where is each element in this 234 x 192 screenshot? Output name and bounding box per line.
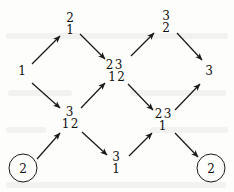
node-label-row: 12 — [61, 118, 79, 130]
edge-bottom-center-to-lower-right — [129, 133, 152, 156]
node-upper-left-21: 21 — [66, 13, 75, 36]
node-label-row: 2 — [162, 22, 171, 34]
node-source-1: 1 — [18, 66, 27, 78]
node-label-cell: 3 — [205, 66, 214, 78]
node-label-row: 1 — [112, 163, 121, 175]
edge-center-to-upper-right — [131, 33, 154, 56]
edge-upper-right-to-sink — [177, 33, 202, 60]
node-label-row: 1 — [18, 66, 27, 78]
edge-lower-left-to-bottom-center — [82, 132, 107, 155]
node-label-cell: 1 — [66, 24, 75, 36]
node-label-row: 1 — [66, 24, 75, 36]
node-label-cell: 2 — [162, 22, 171, 34]
node-upper-right-32: 32 — [162, 11, 171, 34]
edge-source-to-lower-left — [32, 83, 60, 108]
node-label-row: 3 — [205, 66, 214, 78]
edge-upper-left-to-center — [80, 34, 105, 59]
edge-lower-right-to-sink — [175, 84, 200, 110]
node-label: 2 — [19, 161, 27, 175]
node-label-cell: 1 — [61, 118, 70, 130]
node-label-cell: 1 — [158, 120, 167, 132]
node-label-cell: 1 — [112, 163, 121, 175]
edge-source-to-upper-left — [32, 36, 60, 64]
node-label-row: 12 — [108, 71, 126, 83]
node-bottom-center-31: 31 — [112, 152, 121, 175]
node-terminal-circled-2-left: 2 — [9, 154, 38, 183]
edge-lower-right-to-terminal-right — [175, 133, 198, 157]
edge-center-to-lower-right — [128, 84, 153, 110]
node-label-cell: 2 — [70, 118, 79, 130]
node-label-cell: 2 — [117, 71, 126, 83]
node-label-cell: 1 — [108, 71, 117, 83]
node-lower-right-23-1: 231 — [154, 109, 172, 132]
node-sink-3: 3 — [205, 66, 214, 78]
node-center-23-12: 2312 — [103, 60, 126, 83]
edge-lower-left-to-center — [81, 83, 105, 108]
edge-terminal-left-to-lower-left — [37, 133, 60, 159]
node-label: 2 — [207, 161, 215, 175]
node-label-row: 1 — [153, 120, 172, 132]
node-terminal-circled-2-right: 2 — [197, 154, 226, 183]
lattice-diagram: 12131223123223131322 — [0, 0, 234, 192]
node-label-cell: 1 — [18, 66, 27, 78]
node-lower-left-3-12: 312 — [61, 107, 79, 130]
